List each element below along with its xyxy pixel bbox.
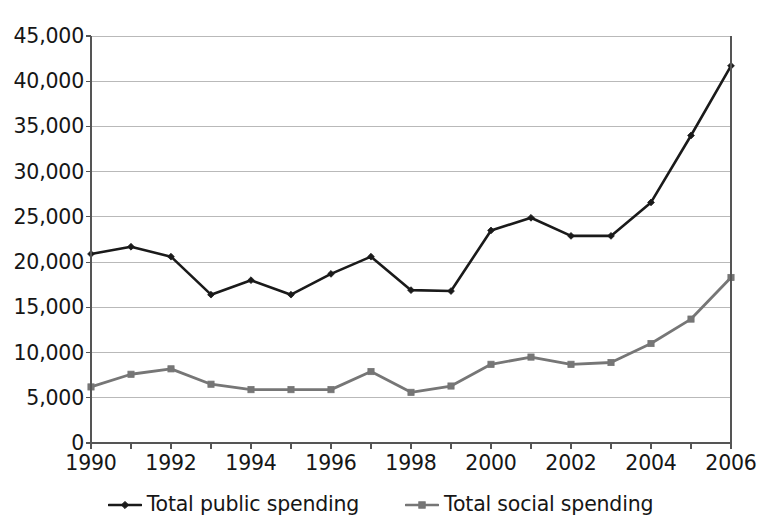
- x-axis-tick-label: 1992: [145, 451, 196, 475]
- legend-label: Total public spending: [147, 493, 359, 515]
- x-axis-tick-label: 1998: [385, 451, 436, 475]
- x-axis-tick-label: 2000: [465, 451, 516, 475]
- line-chart: 05,00010,00015,00020,00025,00030,00035,0…: [0, 0, 761, 532]
- chart-legend: Total public spendingTotal social spendi…: [0, 489, 761, 519]
- x-axis-tick-label: 1996: [305, 451, 356, 475]
- x-axis-tick-label: 1994: [225, 451, 276, 475]
- x-axis-tick-label: 1990: [65, 451, 116, 475]
- x-axis-tick-label: 2002: [545, 451, 596, 475]
- legend-diamond-marker-icon: [108, 497, 142, 511]
- x-axis-labels: 199019921994199619982000200220042006: [0, 451, 761, 485]
- x-axis-tick-label: 2004: [625, 451, 676, 475]
- legend-item-2[interactable]: Total social spending: [405, 493, 653, 515]
- legend-square-marker-icon: [405, 497, 439, 511]
- x-axis-tick-label: 2006: [705, 451, 756, 475]
- legend-label: Total social spending: [444, 493, 653, 515]
- legend-item-1[interactable]: Total public spending: [108, 493, 359, 515]
